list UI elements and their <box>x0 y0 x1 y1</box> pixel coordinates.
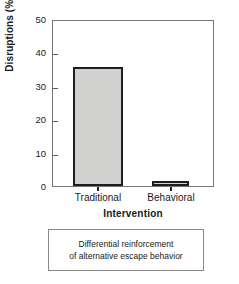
y-tick-label: 20 <box>24 115 46 125</box>
x-tick-mark <box>170 187 172 191</box>
x-tick-mark <box>97 187 99 191</box>
y-tick-label: 30 <box>24 82 46 92</box>
y-axis-tick-labels: 50 40 30 20 10 0 <box>22 0 46 284</box>
y-tick-label: 0 <box>24 182 46 192</box>
y-tick-mark <box>53 121 58 122</box>
bar-chart-figure: Disruptions (%) 50 40 30 20 10 0 Traditi… <box>0 0 239 284</box>
y-tick-label: 10 <box>24 149 46 159</box>
bar-behavioral <box>152 181 189 186</box>
y-tick-mark <box>53 155 58 156</box>
plot-inner <box>53 21 213 186</box>
y-tick-mark <box>53 88 58 89</box>
x-tick-label-behavioral: Behavioral <box>140 192 202 204</box>
caption-box: Differential reinforcement of alternativ… <box>48 229 204 271</box>
x-axis-title: Intervention <box>52 208 214 219</box>
y-axis-title: Disruptions (%) <box>4 0 18 84</box>
bar-traditional <box>73 67 123 186</box>
caption-line-2: of alternative escape behavior <box>69 250 182 262</box>
caption-line-1: Differential reinforcement <box>79 238 174 250</box>
y-tick-mark <box>53 54 58 55</box>
y-tick-label: 50 <box>24 15 46 25</box>
plot-area <box>52 20 214 187</box>
y-tick-label: 40 <box>24 48 46 58</box>
x-tick-label-traditional: Traditional <box>67 192 129 204</box>
